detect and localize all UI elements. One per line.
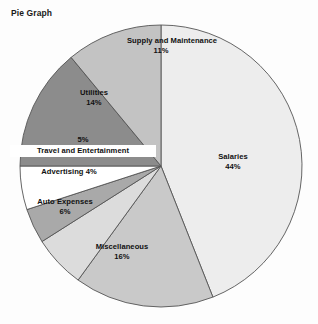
slice-label-name: Supply and Maintenance	[127, 36, 195, 46]
slice-label-utilities: Utilities 14%	[63, 88, 125, 108]
slice-label-advertising: Advertising 4%	[16, 167, 122, 177]
slice-label-value: 14%	[63, 98, 125, 108]
slice-label-supply-and-maintenance: Supply and Maintenance 11%	[127, 36, 195, 56]
slice-label-name: Miscellaneous	[78, 242, 166, 252]
chart-title: Pie Graph	[11, 8, 52, 18]
slice-label-value: 6%	[20, 207, 110, 217]
slice-label-name: Salaries	[204, 152, 262, 162]
slice-label-value: 5%	[10, 135, 156, 145]
slice-label-auto-expenses: Auto Expenses 6%	[20, 197, 110, 217]
slice-label-travel-and-entertainment: 5% Travel and Entertainment	[10, 135, 156, 157]
slice-label-salaries: Salaries 44%	[204, 152, 262, 172]
slice-label-name: Advertising	[41, 167, 83, 176]
slice-label-name: Travel and Entertainment	[10, 145, 156, 157]
slice-label-value: 11%	[127, 46, 195, 56]
slice-label-value: 44%	[204, 162, 262, 172]
slice-label-value: 4%	[86, 167, 97, 176]
slice-label-miscellaneous: Miscellaneous 16%	[78, 242, 166, 262]
slice-label-value: 16%	[78, 252, 166, 262]
slice-label-name: Auto Expenses	[20, 197, 110, 207]
slice-label-name: Utilities	[63, 88, 125, 98]
